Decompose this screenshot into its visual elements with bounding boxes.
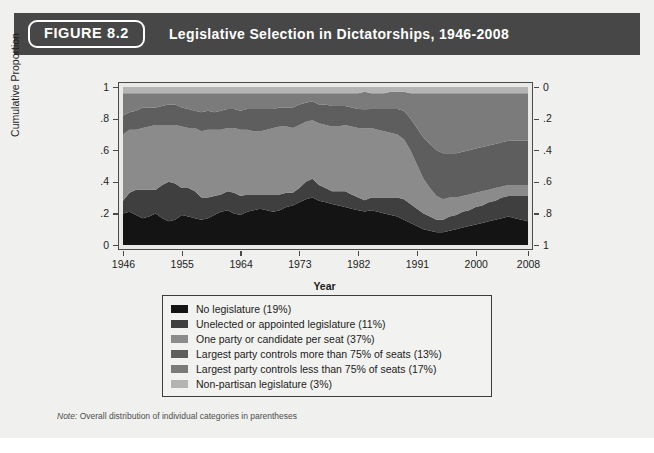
- x-axis-tick-label: 1955: [162, 258, 202, 270]
- x-axis-label: Year: [118, 280, 531, 292]
- legend-label: Non-partisan legislature (3%): [196, 378, 332, 390]
- x-axis-tick-label: 2000: [456, 258, 496, 270]
- y-axis-tick-label: .2: [73, 207, 109, 219]
- legend-row: One party or candidate per seat (37%): [171, 331, 483, 346]
- y2-axis-tickmark: [534, 119, 539, 120]
- legend-swatch: [171, 335, 188, 343]
- y2-axis-tickmark: [534, 150, 539, 151]
- legend-swatch: [171, 320, 188, 328]
- figure-card: FIGURE 8.2 Legislative Selection in Dict…: [0, 0, 654, 438]
- figure-number-badge: FIGURE 8.2: [28, 20, 145, 48]
- legend-label: Largest party controls more than 75% of …: [196, 348, 442, 360]
- x-axis-tick-label: 1946: [104, 258, 144, 270]
- legend-swatch: [171, 305, 188, 313]
- y-axis-tickmark: [113, 213, 118, 214]
- y2-axis-tickmark: [534, 87, 539, 88]
- y2-axis-tick-label: 1: [543, 239, 549, 251]
- y-axis-tick-label: 1: [73, 81, 109, 93]
- chart-region: Cumulative Proportion Year No legislatur…: [14, 62, 640, 428]
- x-axis-tickmark: [182, 251, 183, 256]
- note-prefix: Note:: [57, 411, 77, 421]
- chart-legend: No legislature (19%)Unelected or appoint…: [162, 295, 492, 397]
- y2-axis-tickmark: [534, 182, 539, 183]
- x-axis-tick-label: 1991: [397, 258, 437, 270]
- x-axis-tickmark: [123, 251, 124, 256]
- y-axis-tickmark: [113, 245, 118, 246]
- plot-inner: [123, 87, 528, 245]
- y-axis-label: Cumulative Proportion: [9, 5, 21, 165]
- stacked-area-chart: [123, 87, 528, 245]
- x-axis-tickmark: [476, 251, 477, 256]
- legend-row: Unelected or appointed legislature (11%): [171, 316, 483, 331]
- y-axis-tickmark: [113, 150, 118, 151]
- x-axis-tickmark: [528, 251, 529, 256]
- figure-title: Legislative Selection in Dictatorships, …: [169, 26, 509, 42]
- y2-axis-tick-label: .8: [543, 207, 552, 219]
- x-axis-tickmark: [299, 251, 300, 256]
- legend-label: Unelected or appointed legislature (11%): [196, 318, 386, 330]
- y-axis-tickmark: [113, 182, 118, 183]
- note-text: Overall distribution of individual categ…: [77, 411, 297, 421]
- x-axis-tick-label: 1982: [339, 258, 379, 270]
- area-series: [123, 87, 528, 93]
- legend-label: One party or candidate per seat (37%): [196, 333, 375, 345]
- plot-area: [118, 82, 533, 250]
- y-axis-tick-label: .4: [73, 175, 109, 187]
- legend-swatch: [171, 365, 188, 373]
- y2-axis-tick-label: .2: [543, 112, 552, 124]
- legend-row: No legislature (19%): [171, 301, 483, 316]
- legend-label: No legislature (19%): [196, 303, 291, 315]
- y-axis-tick-label: .6: [73, 144, 109, 156]
- x-axis-tickmark: [358, 251, 359, 256]
- y2-axis-tick-label: 0: [543, 81, 549, 93]
- legend-swatch: [171, 350, 188, 358]
- x-axis-tick-label: 1973: [280, 258, 320, 270]
- figure-header-bar: FIGURE 8.2 Legislative Selection in Dict…: [14, 13, 640, 55]
- legend-row: Non-partisan legislature (3%): [171, 376, 483, 391]
- y2-axis-tickmark: [534, 245, 539, 246]
- x-axis-tick-label: 1964: [221, 258, 261, 270]
- y-axis-tickmark: [113, 119, 118, 120]
- legend-row: Largest party controls less than 75% of …: [171, 361, 483, 376]
- y-axis-tick-label: 0: [73, 239, 109, 251]
- legend-row: Largest party controls more than 75% of …: [171, 346, 483, 361]
- legend-swatch: [171, 380, 188, 388]
- legend-label: Largest party controls less than 75% of …: [196, 363, 436, 375]
- y2-axis-tick-label: .4: [543, 144, 552, 156]
- y-axis-tickmark: [113, 87, 118, 88]
- x-axis-tickmark: [240, 251, 241, 256]
- x-axis-tick-label: 2008: [509, 258, 549, 270]
- y-axis-tick-label: .8: [73, 112, 109, 124]
- y2-axis-tick-label: .6: [543, 175, 552, 187]
- x-axis-tickmark: [417, 251, 418, 256]
- y2-axis-tickmark: [534, 213, 539, 214]
- figure-note: Note: Overall distribution of individual…: [57, 411, 297, 421]
